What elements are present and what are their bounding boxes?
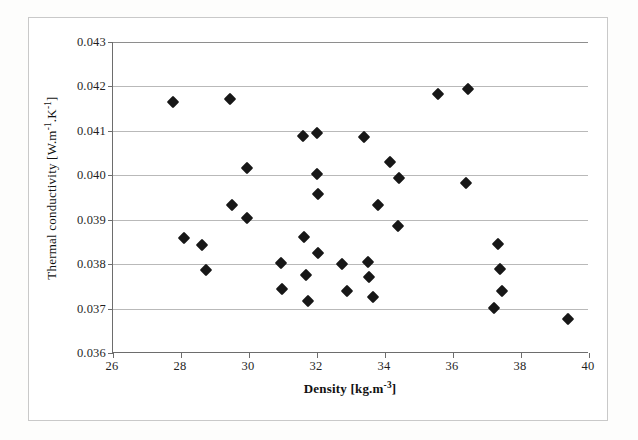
- data-point-marker: [311, 168, 324, 181]
- y-axis-tick: [108, 86, 113, 87]
- y-tick-label: 0.040: [77, 168, 106, 183]
- x-axis-tick: [181, 353, 182, 358]
- data-point-marker: [178, 232, 191, 245]
- y-axis-tick: [108, 131, 113, 132]
- x-axis-tick: [521, 353, 522, 358]
- data-point-marker: [392, 172, 405, 185]
- y-tick-label: 0.043: [77, 35, 106, 50]
- data-point-marker: [391, 220, 404, 233]
- data-point-marker: [362, 256, 375, 269]
- data-point-marker: [462, 83, 475, 96]
- x-axis-title-tail: ]: [392, 381, 397, 396]
- data-point-marker: [487, 301, 500, 314]
- gridline-y: [113, 264, 588, 265]
- data-point-marker: [226, 199, 239, 212]
- figure-container: Thermal conductivity [W.m-1.K-1] 0.0360.…: [0, 0, 638, 440]
- gridline-y: [113, 86, 588, 87]
- data-point-marker: [300, 268, 313, 281]
- x-axis-tick: [249, 353, 250, 358]
- y-axis-tick: [108, 309, 113, 310]
- y-axis-tick: [108, 220, 113, 221]
- gridline-y: [113, 220, 588, 221]
- data-point-marker: [492, 238, 505, 251]
- data-point-marker: [240, 162, 253, 175]
- data-point-marker: [371, 198, 384, 211]
- y-tick-label: 0.042: [77, 79, 106, 94]
- data-point-marker: [199, 264, 212, 277]
- data-point-marker: [302, 294, 315, 307]
- data-point-marker: [496, 284, 509, 297]
- plot-area: [112, 42, 588, 353]
- y-tick-label-group: 0.0360.0370.0380.0390.0400.0410.0420.043: [46, 0, 106, 440]
- x-tick-label: 40: [582, 359, 595, 374]
- x-tick-label: 36: [446, 359, 459, 374]
- data-point-marker: [276, 283, 289, 296]
- data-point-marker: [311, 126, 324, 139]
- data-point-marker: [275, 256, 288, 269]
- gridline-y: [113, 42, 588, 43]
- gridline-y: [113, 131, 588, 132]
- data-point-marker: [431, 88, 444, 101]
- x-axis-title: Density [kg.m-3]: [112, 381, 588, 397]
- data-point-marker: [311, 247, 324, 260]
- x-tick-label: 32: [310, 359, 323, 374]
- y-tick-label: 0.038: [77, 257, 106, 272]
- x-axis-tick: [385, 353, 386, 358]
- x-tick-label: 26: [106, 359, 119, 374]
- y-tick-label: 0.041: [77, 123, 106, 138]
- data-point-marker: [561, 312, 574, 325]
- data-point-marker: [298, 230, 311, 243]
- gridline-y: [113, 309, 588, 310]
- data-point-marker: [460, 177, 473, 190]
- y-tick-label: 0.039: [77, 212, 106, 227]
- data-point-marker: [358, 130, 371, 143]
- data-point-marker: [167, 96, 180, 109]
- data-point-marker: [312, 188, 325, 201]
- x-axis-tick: [589, 353, 590, 358]
- x-axis-tick: [113, 353, 114, 358]
- data-point-marker: [341, 285, 354, 298]
- data-point-marker: [195, 238, 208, 251]
- x-axis-title-sup: -3: [384, 380, 392, 390]
- x-axis-title-text: Density [kg.m: [304, 381, 384, 396]
- x-tick-label: 28: [174, 359, 187, 374]
- x-axis-tick: [317, 353, 318, 358]
- gridline-y: [113, 175, 588, 176]
- data-point-marker: [367, 291, 380, 304]
- x-tick-label: 34: [378, 359, 391, 374]
- data-point-marker: [384, 156, 397, 169]
- data-point-marker: [363, 271, 376, 284]
- data-point-marker: [241, 212, 254, 225]
- y-axis-tick: [108, 264, 113, 265]
- y-tick-label: 0.036: [77, 346, 106, 361]
- data-point-marker: [224, 93, 237, 106]
- x-tick-label: 38: [514, 359, 527, 374]
- y-axis-tick: [108, 175, 113, 176]
- x-tick-label: 30: [242, 359, 255, 374]
- data-point-marker: [335, 258, 348, 271]
- y-axis-tick: [108, 42, 113, 43]
- x-axis-tick: [453, 353, 454, 358]
- y-tick-label: 0.037: [77, 301, 106, 316]
